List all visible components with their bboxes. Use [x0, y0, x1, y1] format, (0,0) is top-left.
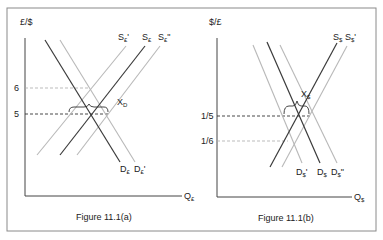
label-d-dollar: D$: [317, 167, 328, 178]
bracket-label-xd: XD: [117, 97, 128, 108]
x-axis-label-b: Q$: [354, 192, 365, 203]
label-s-dollar: S$: [333, 32, 343, 43]
y-axis-label-b: $/£: [209, 17, 222, 27]
label-d-dollar-prime: D$': [296, 167, 308, 178]
figure-b: $/£ Q$ 1/5 1/6 X$ S$ S$' D$' D$ D$" Figu…: [201, 17, 365, 223]
demand-curve-d-pound: [45, 40, 120, 162]
label-s-pound: S£: [142, 32, 152, 43]
label-d-dollar-double-prime: D$": [331, 167, 344, 178]
demand-curve-d-pound-prime: [60, 40, 135, 162]
label-s-pound-double-prime: S£": [158, 32, 171, 43]
demand-curve-d-dollar-double-prime: [280, 45, 337, 163]
supply-curve-s-pound: [60, 46, 145, 155]
supply-curve-s-dollar: [270, 43, 337, 167]
tick-5: 5: [14, 109, 19, 119]
tick-6: 6: [14, 83, 19, 93]
x-axis-label-a: Q£: [184, 191, 195, 202]
tick-one-fifth: 1/5: [201, 111, 214, 121]
figure-a: £/$ Q£ 6 5 XD S£' S£ S£" D£ D£' Figure 1…: [14, 17, 195, 222]
y-axis-label-a: £/$: [20, 17, 33, 27]
caption-a: Figure 11.1(a): [76, 212, 132, 222]
label-s-dollar-prime: S$': [345, 32, 356, 43]
caption-b: Figure 11.1(b): [258, 213, 314, 223]
bracket-label-x-dollar: X$: [301, 89, 311, 100]
label-d-pound: D£: [120, 164, 131, 175]
exchange-market-diagram: £/$ Q£ 6 5 XD S£' S£ S£" D£ D£' Figure 1…: [0, 0, 383, 240]
tick-one-sixth: 1/6: [201, 136, 214, 146]
supply-curve-s-dollar-prime: [282, 46, 347, 167]
label-s-pound-prime: S£': [118, 32, 129, 43]
label-d-pound-prime: D£': [134, 164, 146, 175]
